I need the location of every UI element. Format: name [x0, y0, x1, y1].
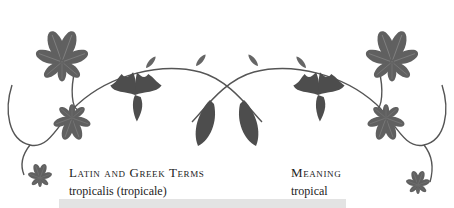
table-row-highlighted [59, 199, 346, 208]
column-header-meaning: Meaning [291, 165, 341, 181]
table-cell-latin: tropicalis (tropicale) [69, 184, 167, 199]
table-cell-meaning: tropical [291, 184, 328, 199]
column-header-latin-greek-terms: Latin and Greek Terms [69, 165, 204, 181]
terms-table: Latin and Greek Terms Meaning tropicalis… [0, 0, 454, 208]
